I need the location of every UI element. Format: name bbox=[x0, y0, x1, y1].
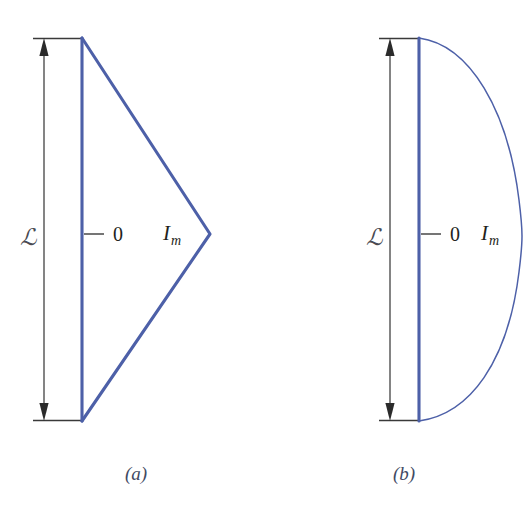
figure-background bbox=[0, 0, 531, 515]
panel-a-length-label: ℒ bbox=[20, 224, 37, 250]
panel-a-caption: (a) bbox=[125, 463, 147, 485]
panel-a-current-label-subscript: m bbox=[171, 233, 181, 248]
panel-b-origin-label: 0 bbox=[450, 223, 460, 245]
panel-b-current-label-subscript: m bbox=[489, 233, 499, 248]
antenna-current-distribution-figure: ℒ 0 Im (a) ℒ bbox=[0, 0, 531, 515]
panel-b-caption: (b) bbox=[393, 463, 415, 485]
panel-b-length-label: ℒ bbox=[366, 224, 383, 250]
panel-a-origin-label: 0 bbox=[113, 223, 123, 245]
figure-canvas: ℒ 0 Im (a) ℒ bbox=[0, 0, 531, 515]
